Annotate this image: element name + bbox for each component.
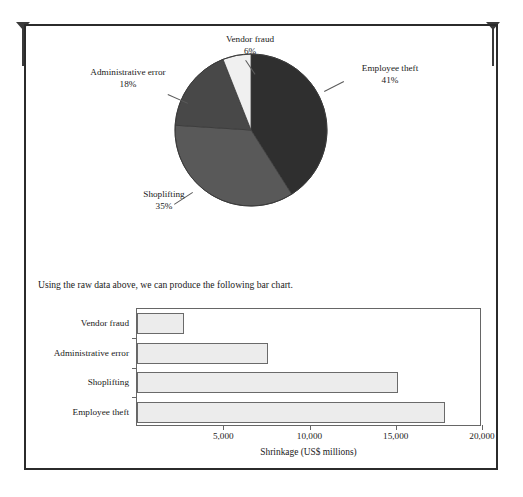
x-axis-tick	[396, 425, 397, 430]
pie-label-administrative-error-name: Administrative error	[90, 67, 165, 77]
bar-employee-theft	[137, 402, 445, 423]
bar-chart-x-axis-title: Shrinkage (US$ millions)	[136, 447, 481, 457]
x-axis-tick	[223, 425, 224, 430]
pie-label-vendor-fraud: Vendor fraud 6%	[202, 34, 298, 57]
body-caption-text: Using the raw data above, we can produce…	[38, 278, 458, 291]
bar-chart-plot-area: Vendor fraudAdministrative errorShoplift…	[136, 308, 481, 426]
pie-chart	[174, 53, 328, 207]
bar-shoplifting	[137, 372, 398, 393]
bar-category-label-administrative-error: Administrative error	[54, 344, 129, 363]
bar-row: Vendor fraud	[137, 309, 480, 339]
figure-page: Vendor fraud 6% Administrative error 18%…	[0, 0, 523, 497]
bar-chart-figure: Vendor fraudAdministrative errorShoplift…	[24, 300, 498, 460]
x-axis-tick-label: 15,000	[383, 431, 408, 442]
bar-row: Shoplifting	[137, 368, 480, 398]
bar-category-tick	[132, 397, 137, 398]
x-axis-tick	[482, 425, 483, 430]
x-axis-tick	[310, 425, 311, 430]
pie-label-vendor-fraud-name: Vendor fraud	[226, 34, 274, 44]
pie-label-employee-theft: Employee theft 41%	[340, 63, 440, 86]
pie-label-vendor-fraud-value: 6%	[202, 46, 298, 58]
pie-label-shoplifting-value: 35%	[116, 201, 212, 213]
pie-label-shoplifting-name: Shoplifting	[143, 189, 184, 199]
bar-row: Employee theft	[137, 398, 480, 428]
pie-label-administrative-error-value: 18%	[82, 79, 174, 91]
x-axis-tick-label: 10,000	[297, 431, 322, 442]
pie-chart-figure: Vendor fraud 6% Administrative error 18%…	[24, 26, 498, 272]
bar-row: Administrative error	[137, 339, 480, 369]
bar-category-label-shoplifting: Shoplifting	[88, 373, 129, 392]
pie-label-employee-theft-name: Employee theft	[362, 63, 418, 73]
pie-label-shoplifting: Shoplifting 35%	[116, 189, 212, 212]
pie-slice-group	[175, 54, 327, 206]
bar-category-label-vendor-fraud: Vendor fraud	[81, 314, 129, 333]
pie-chart-svg	[174, 53, 328, 207]
bar-category-label-employee-theft: Employee theft	[73, 403, 129, 422]
bar-category-tick	[132, 368, 137, 369]
pie-label-administrative-error: Administrative error 18%	[82, 67, 174, 90]
bar-category-tick	[132, 338, 137, 339]
x-axis-tick-label: 20,000	[469, 431, 494, 442]
pie-label-employee-theft-value: 41%	[340, 75, 440, 87]
bar-administrative-error	[137, 343, 268, 364]
x-axis-tick-label: 5,000	[213, 431, 234, 442]
bar-vendor-fraud	[137, 313, 184, 334]
